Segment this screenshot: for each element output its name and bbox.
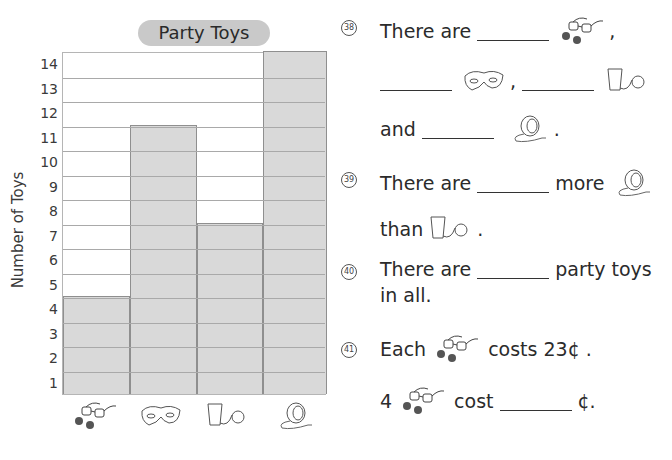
x-axis-icons [62,398,326,434]
gridline [63,225,325,226]
question-39-line2: than . [380,214,483,244]
gridline [63,127,325,128]
glasses-icon [396,386,450,416]
question-40-line1: There are party toys [380,258,652,280]
gridline [63,102,325,103]
bar-chart-plot [62,52,326,395]
gridline [63,200,325,201]
answer-blank-glasses[interactable] [477,22,549,41]
q40-party-toys: party toys [555,258,651,280]
question-38-line3: and . [380,112,560,146]
glasses-icon [559,16,605,46]
q38-and: and [380,118,416,140]
y-tick: 4 [49,301,58,317]
q41-cost: cost [454,390,493,412]
yoyo-icon [608,166,654,200]
q38-comma: , [510,70,516,92]
bar-glasses [63,296,130,394]
q38-comma: , [609,20,615,42]
q39-more: more [555,172,604,194]
gridline [63,274,325,275]
q39-than: than [380,218,423,240]
glasses-icon [430,334,484,364]
y-tick: 3 [49,326,58,342]
question-number-40: 40 [341,264,357,280]
y-tick: 11 [40,130,58,146]
y-tick: 8 [49,203,58,219]
q39-period: . [477,218,483,240]
q40-in-all: in all. [380,284,432,306]
y-tick: 1 [49,375,58,391]
yoyo-icon [504,112,550,146]
answer-blank-more[interactable] [477,174,549,193]
q41-count: 4 [380,390,392,412]
question-number-38: 38 [341,20,357,36]
answer-blank-cup-and-ball[interactable] [522,72,594,91]
y-tick: 9 [49,179,58,195]
mask-icon [462,66,506,96]
y-tick: 6 [49,252,58,268]
y-tick: 12 [40,105,58,121]
answer-blank-mask[interactable] [380,72,452,91]
question-number-41: 41 [341,342,357,358]
y-tick: 7 [49,228,58,244]
q40-text: There are [380,258,471,280]
question-number-39: 39 [341,172,357,188]
cup-and-ball-icon [194,398,260,434]
question-39-line1: There are more [380,166,658,200]
question-41-line1: Each costs 23¢ . [380,334,592,364]
gridline [63,78,325,79]
yoyo-icon [260,398,326,434]
q41-each: Each [380,338,426,360]
gridline [63,176,325,177]
q41-cents: ¢. [578,390,596,412]
gridline [63,347,325,348]
cup-and-ball-icon [427,214,473,244]
y-tick: 13 [40,81,58,97]
q38-text: There are [380,20,471,42]
question-41-line2: 4 cost ¢. [380,386,596,416]
question-38-line1: There are , [380,16,615,46]
question-40-line2: in all. [380,284,432,306]
q41-costs: costs 23¢ . [488,338,592,360]
gridline [63,249,325,250]
cup-and-ball-icon [604,66,650,96]
q38-period: . [554,118,560,140]
y-axis-label: Number of Toys [9,172,27,289]
y-tick: 2 [49,350,58,366]
q39-text: There are [380,172,471,194]
bar-mask [130,125,197,395]
gridline [63,151,325,152]
y-tick: 10 [40,154,58,170]
chart-title: Party Toys [138,20,270,46]
y-tick: 14 [40,56,58,72]
answer-blank-yoyo[interactable] [422,120,494,139]
y-tick: 5 [49,277,58,293]
glasses-icon [62,398,128,434]
gridline [63,298,325,299]
gridline [63,372,325,373]
mask-icon [128,398,194,434]
gridline [63,323,325,324]
answer-blank-total[interactable] [477,260,549,279]
y-axis-ticks: 1 2 3 4 5 6 7 8 9 10 11 12 13 14 [28,52,58,395]
question-38-line2: , [380,66,654,96]
answer-blank-cost[interactable] [500,392,572,411]
